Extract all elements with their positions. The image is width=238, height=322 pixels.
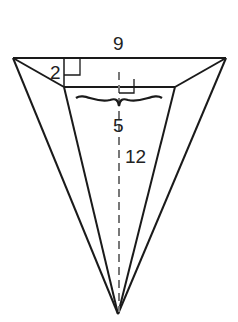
right-top-slant <box>175 58 226 87</box>
label-left-height: 2 <box>50 62 61 83</box>
right-angle-mark-left <box>64 58 80 75</box>
label-top-width: 9 <box>113 33 124 54</box>
label-slant-height: 12 <box>125 146 146 167</box>
label-inner-width: 5 <box>113 115 124 136</box>
pyramid-diagram: 9 2 5 12 <box>0 0 238 322</box>
